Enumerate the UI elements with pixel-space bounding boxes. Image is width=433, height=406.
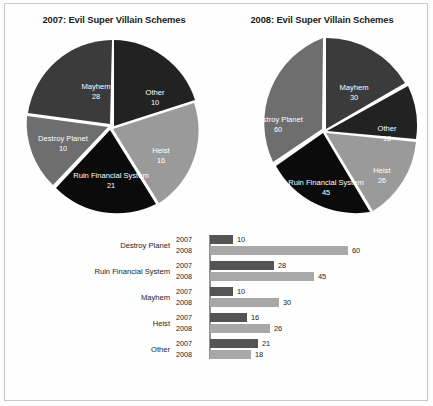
- pie-2007-value-heist: 16: [157, 156, 165, 165]
- bar-year-label-other-2007: 2007: [176, 339, 192, 348]
- bar-chart-svg: Destroy Planet 2007 2008 10 60 Ruin Fina…: [10, 231, 424, 371]
- bar-category-label-mayhem: Mayhem: [141, 293, 170, 302]
- pie-2008-label-ruin: Ruin Financial System: [288, 178, 364, 187]
- bar-ruin-2007: [210, 261, 274, 270]
- bar-value-destroy-2007: 10: [237, 235, 245, 244]
- pie-2008-value-heist: 26: [378, 176, 386, 185]
- bar-year-label-heist-2007: 2007: [176, 313, 192, 322]
- pie-2008-value-destroy: 60: [274, 125, 282, 134]
- bar-other-2007: [210, 339, 258, 348]
- bar-year-label-other-2008: 2008: [176, 350, 192, 359]
- pie-2008-value-other: 18: [383, 134, 391, 143]
- bar-heist-2008: [210, 324, 270, 333]
- bar-value-heist-2007: 16: [251, 313, 259, 322]
- bar-heist-2007: [210, 313, 247, 322]
- pie-2008-title: 2008: Evil Super Villain Schemes: [222, 14, 422, 25]
- bar-year-label-destroy-2007: 2007: [176, 235, 192, 244]
- pie-2007-label-other: Other: [146, 88, 165, 97]
- bar-year-label-mayhem-2008: 2008: [176, 298, 192, 307]
- pie-chart-2007: Mayhem 28 Other 10 Heist 16 Destroy Plan…: [18, 30, 204, 222]
- bar-value-destroy-2008: 60: [352, 246, 360, 255]
- bar-value-ruin-2008: 45: [318, 272, 326, 281]
- bar-year-label-destroy-2008: 2008: [176, 246, 192, 255]
- pie-2008-value-mayhem: 30: [350, 93, 358, 102]
- pie-2008-label-heist: Heist: [373, 166, 391, 175]
- pie-2008-value-ruin: 45: [322, 188, 330, 197]
- pie-2007-value-ruin: 21: [107, 181, 115, 190]
- bar-year-label-ruin-2008: 2008: [176, 272, 192, 281]
- bar-value-ruin-2007: 28: [278, 261, 286, 270]
- bar-category-label-destroy-planet: Destroy Planet: [120, 241, 171, 250]
- pie-2008-label-other: Other: [378, 124, 397, 133]
- pie-2007-label-heist: Heist: [152, 146, 170, 155]
- pie-chart-2008: Mayhem 30 Other 18 Heist 26 Destroy Plan…: [228, 28, 420, 226]
- bar-other-2008: [210, 350, 251, 359]
- bar-ruin-2008: [210, 272, 314, 281]
- chart-figure: 2007: Evil Super Villain Schemes: [0, 0, 433, 406]
- grouped-bar-chart: Destroy Planet 2007 2008 10 60 Ruin Fina…: [10, 231, 424, 371]
- bar-value-other-2007: 21: [262, 339, 270, 348]
- bar-category-label-heist: Heist: [153, 319, 171, 328]
- pie-2008-label-destroy: Destroy Planet: [253, 115, 304, 124]
- bar-category-label-other: Other: [151, 345, 170, 354]
- bar-category-label-ruin-financial-system: Ruin Financial System: [94, 267, 170, 276]
- pie-2007-value-other: 10: [151, 98, 159, 107]
- bar-mayhem-2007: [210, 287, 233, 296]
- pie-2007-title: 2007: Evil Super Villain Schemes: [14, 14, 214, 25]
- pie-2007-value-mayhem: 28: [92, 92, 100, 101]
- pie-2007-label-ruin: Ruin Financial System: [73, 171, 149, 180]
- bar-year-label-heist-2008: 2008: [176, 324, 192, 333]
- pie-2008-svg: Mayhem 30 Other 18 Heist 26 Destroy Plan…: [228, 28, 420, 226]
- bar-value-mayhem-2008: 30: [283, 298, 291, 307]
- pie-2007-label-destroy: Destroy Planet: [38, 134, 89, 143]
- bar-mayhem-2008: [210, 298, 279, 307]
- bar-year-label-mayhem-2007: 2007: [176, 287, 192, 296]
- bar-destroy-2008: [210, 246, 348, 255]
- pie-2007-svg: Mayhem 28 Other 10 Heist 16 Destroy Plan…: [18, 30, 204, 222]
- bar-value-heist-2008: 26: [274, 324, 282, 333]
- bar-value-other-2008: 18: [255, 350, 263, 359]
- pie-2007-value-destroy: 10: [59, 144, 67, 153]
- bar-year-label-ruin-2007: 2007: [176, 261, 192, 270]
- bar-value-mayhem-2007: 10: [237, 287, 245, 296]
- bar-destroy-2007: [210, 235, 233, 244]
- pie-2007-label-mayhem: Mayhem: [81, 82, 110, 91]
- pie-2008-label-mayhem: Mayhem: [339, 83, 368, 92]
